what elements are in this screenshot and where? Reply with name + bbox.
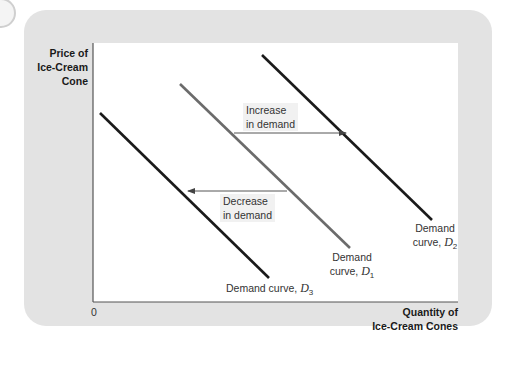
d1-label-line1: Demand xyxy=(327,250,377,264)
decrease-note-line2: in demand xyxy=(223,208,272,222)
d2-symbol: D xyxy=(444,235,453,249)
increase-note-line1: Increase xyxy=(246,103,295,117)
decrease-note-line1: Decrease xyxy=(223,194,272,208)
d1-label-line2: curve, xyxy=(330,265,359,277)
d2-label-line2: curve, xyxy=(413,236,442,248)
label-demand-curve-d1: Demand curve, D1 xyxy=(327,250,377,283)
d1-symbol: D xyxy=(361,264,370,278)
y-label-line2: Ice-Cream xyxy=(30,60,88,74)
origin-label: 0 xyxy=(91,306,97,318)
demand-curve-d2 xyxy=(262,55,432,220)
d3-subscript: 3 xyxy=(309,288,313,297)
x-axis-label: Quantity of Ice-Cream Cones xyxy=(360,305,458,333)
d3-label-text: Demand curve, xyxy=(226,282,297,294)
d2-subscript: 2 xyxy=(453,242,457,251)
x-label-line2: Ice-Cream Cones xyxy=(360,319,458,333)
label-demand-curve-d3: Demand curve, D3 xyxy=(226,281,346,300)
d2-label-line1: Demand xyxy=(410,221,460,235)
increase-note-line2: in demand xyxy=(246,117,295,131)
d3-symbol: D xyxy=(300,281,309,295)
d1-subscript: 1 xyxy=(370,271,374,280)
y-axis-label: Price of Ice-Cream Cone xyxy=(30,46,88,88)
label-demand-curve-d2: Demand curve, D2 xyxy=(410,221,460,254)
x-label-line1: Quantity of xyxy=(360,305,458,319)
y-label-line3: Cone xyxy=(30,74,88,88)
increase-demand-note: Increase in demand xyxy=(243,103,298,131)
decrease-demand-note: Decrease in demand xyxy=(220,194,275,222)
y-label-line1: Price of xyxy=(30,46,88,60)
